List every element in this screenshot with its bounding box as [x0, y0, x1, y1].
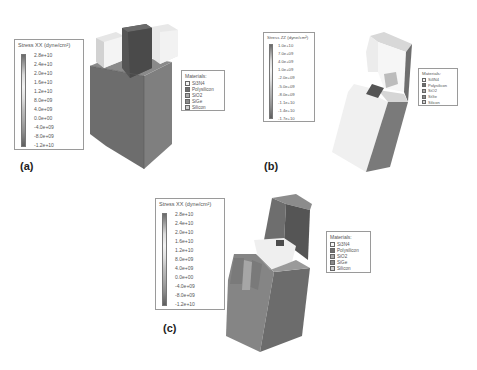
legend-item-silicon: Silicon: [182, 105, 224, 111]
tick-label: -5.0e+09: [278, 84, 295, 89]
legend-label: SiGe: [192, 99, 202, 104]
legend-label: SiO2: [337, 254, 347, 259]
tick-label: 8.0e+09: [34, 97, 54, 103]
colorbar-ticks: 2.8e+10 2.4e+10 2.0e+10 1.6e+10 1.2e+10 …: [34, 52, 54, 148]
tick-label: 1.2e+10: [34, 88, 54, 94]
materials-legend-a: Materials: Si3N4 Polysilicon SiO2 SiGe S…: [181, 70, 225, 111]
swatch-icon: [422, 95, 426, 99]
tick-label: 4.0e+09: [278, 59, 295, 64]
legend-label: SiO2: [428, 88, 437, 93]
swatch-icon: [330, 254, 335, 259]
tick-label: 2.4e+10: [175, 220, 195, 226]
tick-label: -1.2e+10: [34, 142, 54, 148]
panel-label-c: (c): [163, 322, 176, 334]
legend-label: Silicon: [192, 105, 206, 110]
colorbar: [162, 213, 167, 306]
tick-label: 1.6e+10: [34, 79, 54, 85]
materials-legend-c: Materials: Si3N4 Polysilicon SiO2 SiGe S…: [326, 231, 371, 273]
tick-label: -1.2e+10: [175, 301, 195, 307]
tick-label: -8.0e+09: [34, 133, 54, 139]
tick-label: 1.2e+10: [175, 247, 195, 253]
tick-label: -4.0e+09: [34, 124, 54, 130]
tick-label: -4.0e+09: [175, 283, 195, 289]
swatch-icon: [185, 93, 190, 98]
colorbar-ticks: 1.0e+10 7.0e+09 4.0e+09 1.0e+09 -2.0e+09…: [278, 43, 295, 121]
legend-label: SiGe: [337, 260, 347, 265]
tick-label: 4.0e+09: [175, 265, 195, 271]
tick-label: -8.0e+09: [278, 92, 295, 97]
tick-label: 2.0e+10: [34, 70, 54, 76]
legend-label: Silicon: [428, 100, 440, 105]
colorbar: [21, 54, 26, 147]
swatch-icon: [185, 81, 190, 86]
panel-label-b: (b): [264, 160, 278, 172]
materials-legend-b: Materials: Si3N4 Polysilicon SiO2 SiGe S…: [418, 68, 458, 106]
swatch-icon: [185, 99, 190, 104]
tick-label: -1.4e+10: [278, 108, 295, 113]
swatch-icon: [330, 266, 335, 271]
tick-label: 0.0e+00: [34, 115, 54, 121]
swatch-icon: [330, 248, 335, 253]
tick-label: 8.0e+09: [175, 256, 195, 262]
colorbar-ticks: 2.8e+10 2.4e+10 2.0e+10 1.6e+10 1.2e+10 …: [175, 211, 195, 307]
swatch-icon: [422, 78, 426, 82]
tick-label: 2.4e+10: [34, 61, 54, 67]
legend-label: Si3N4: [337, 242, 350, 247]
swatch-icon: [330, 242, 335, 247]
legend-label: Si3N4: [192, 81, 205, 86]
tick-label: 1.0e+09: [278, 67, 295, 72]
legend-item-silicon: Silicon: [419, 99, 457, 105]
tick-label: 2.8e+10: [175, 211, 195, 217]
fem-structure-b: [318, 32, 428, 182]
tick-label: 1.0e+10: [278, 43, 295, 48]
tick-label: 7.0e+09: [278, 51, 295, 56]
stress-legend-title: Stress ZZ (dyne/cm²): [264, 33, 314, 40]
tick-label: 1.6e+10: [175, 238, 195, 244]
tick-label: 2.8e+10: [34, 52, 54, 58]
swatch-icon: [185, 105, 190, 110]
tick-label: -1.1e+10: [278, 100, 295, 105]
tick-label: -1.7e+10: [278, 116, 295, 121]
tick-label: 0.0e+00: [175, 274, 195, 280]
legend-label: SiO2: [192, 93, 202, 98]
panel-label-a: (a): [20, 160, 33, 172]
fem-structure-c: [200, 180, 330, 360]
colorbar: [269, 44, 273, 119]
legend-item-silicon: Silicon: [327, 266, 370, 272]
materials-legend-title: Materials:: [327, 232, 370, 241]
swatch-icon: [422, 83, 426, 87]
swatch-icon: [422, 89, 426, 93]
materials-legend-title: Materials:: [182, 71, 224, 80]
tick-label: -2.0e+09: [278, 75, 295, 80]
tick-label: 4.0e+09: [34, 106, 54, 112]
tick-label: -8.0e+09: [175, 292, 195, 298]
swatch-icon: [330, 260, 335, 265]
tick-label: 2.0e+10: [175, 229, 195, 235]
stress-legend-a: Stress XX (dyne/cm²) 2.8e+10 2.4e+10 2.0…: [14, 39, 84, 150]
legend-label: Polysilicon: [428, 83, 447, 88]
legend-label: SiGe: [428, 94, 437, 99]
legend-label: Silicon: [337, 266, 351, 271]
materials-legend-title: Materials:: [419, 69, 457, 77]
legend-label: Polysilicon: [337, 248, 359, 253]
stress-legend-title: Stress XX (dyne/cm²): [15, 40, 83, 48]
legend-label: Si3N4: [428, 77, 439, 82]
legend-label: Polysilicon: [192, 87, 214, 92]
swatch-icon: [185, 87, 190, 92]
fem-structure-a: [88, 24, 188, 174]
swatch-icon: [422, 100, 426, 104]
stress-legend-b: Stress ZZ (dyne/cm²) 1.0e+10 7.0e+09 4.0…: [263, 32, 315, 122]
